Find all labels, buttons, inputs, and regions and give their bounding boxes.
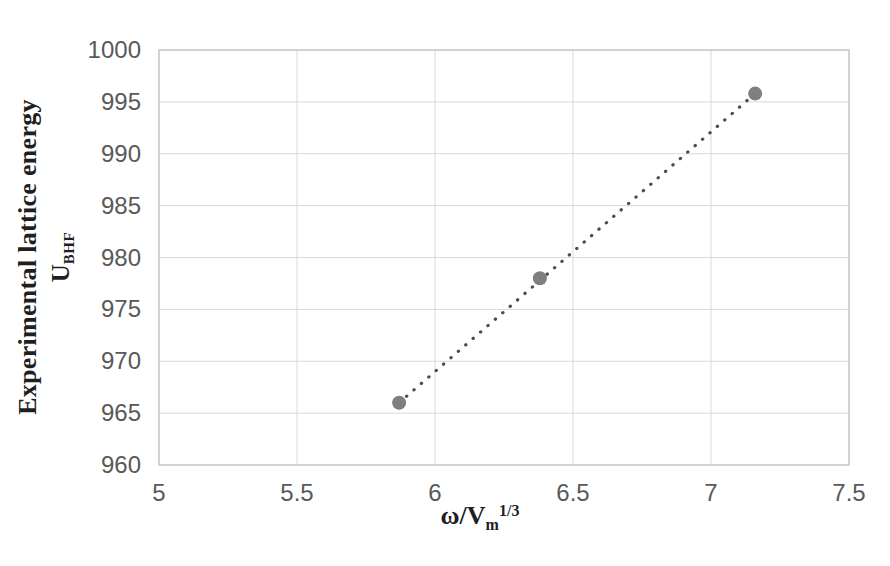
data-point-marker	[392, 396, 406, 410]
y-axis-tick-label: 1000	[88, 36, 141, 63]
y-axis-tick-label: 985	[101, 192, 141, 219]
x-axis-symbol-base: ω/V	[441, 501, 486, 530]
x-axis-symbol-subscript: m	[486, 516, 499, 533]
y-axis-title-symbol: UBHF	[44, 42, 86, 472]
x-axis-tick-label: 7.5	[832, 479, 865, 506]
x-axis-symbol-superscript: 1/3	[499, 502, 519, 519]
y-axis-tick-label: 980	[101, 244, 141, 271]
y-axis-tick-label: 990	[101, 140, 141, 167]
plot-area: 960965970975980985990995100055.566.577.5	[0, 0, 890, 566]
x-axis-tick-label: 7	[704, 479, 717, 506]
trendline-dotted	[399, 94, 755, 403]
y-axis-title-text: Experimental lattice energy	[11, 42, 44, 472]
y-axis-symbol-base: U	[47, 264, 74, 282]
x-axis-title: ω/Vm1/3	[350, 501, 610, 534]
y-axis-tick-label: 995	[101, 88, 141, 115]
y-axis-tick-label: 975	[101, 295, 141, 322]
y-axis-tick-label: 965	[101, 399, 141, 426]
data-point-marker	[533, 271, 547, 285]
x-axis-tick-label: 5	[152, 479, 165, 506]
y-axis-title: Experimental lattice energy UBHF	[11, 42, 83, 472]
scatter-chart: 960965970975980985990995100055.566.577.5…	[0, 0, 890, 566]
x-axis-tick-label: 5.5	[280, 479, 313, 506]
data-point-marker	[748, 87, 762, 101]
y-axis-tick-label: 970	[101, 347, 141, 374]
y-axis-tick-label: 960	[101, 451, 141, 478]
y-axis-symbol-subscript: BHF	[61, 232, 77, 264]
